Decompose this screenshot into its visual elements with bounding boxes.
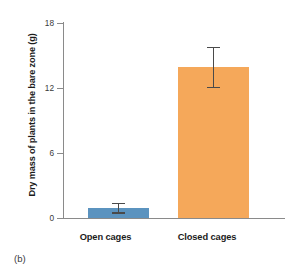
- error-bar-cap-bottom: [112, 212, 125, 213]
- y-tick-label: 0: [14, 213, 54, 223]
- bar-chart-figure: Dry mass of plants in the bare zone (g) …: [0, 0, 290, 277]
- error-bar-cap-top: [112, 203, 125, 204]
- y-tick-label: 12: [14, 83, 54, 93]
- plot-area: [63, 23, 248, 218]
- x-tick-label-open-cages: Open cages: [58, 232, 153, 242]
- x-axis-line: [63, 218, 285, 219]
- error-bar-closed-cages: [207, 47, 220, 88]
- y-tick-label: 6: [14, 148, 54, 158]
- error-bar-cap-bottom: [207, 87, 220, 88]
- error-bar-open-cages: [112, 203, 125, 214]
- y-tick-label: 18: [14, 18, 54, 28]
- y-axis-title: Dry mass of plants in the bare zone (g): [27, 10, 37, 220]
- error-bar-line: [213, 47, 214, 88]
- panel-label: (b): [14, 253, 26, 264]
- bar-closed-cages: [178, 67, 249, 218]
- x-tick-label-closed-cages: Closed cages: [152, 232, 262, 242]
- error-bar-cap-top: [207, 47, 220, 48]
